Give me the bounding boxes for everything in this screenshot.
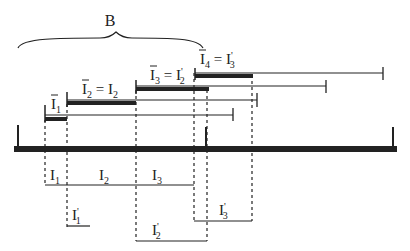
interval-bar-3: I3 = I'2 <box>136 66 326 94</box>
svg-text:I'2: I'2 <box>152 221 161 241</box>
svg-text:I1: I1 <box>50 167 60 186</box>
prime-segments: I'1 I'2 I'3 <box>67 201 252 241</box>
main-baseline <box>14 125 397 152</box>
interval-diagram: B I4 = I'3 I3 = I'2 I2 = I2 <box>0 0 410 251</box>
svg-text:I1: I1 <box>51 96 61 115</box>
svg-text:I2 = I2: I2 = I2 <box>82 81 118 100</box>
svg-text:I3: I3 <box>152 167 162 186</box>
brace-b <box>18 32 203 48</box>
svg-text:I2: I2 <box>99 167 109 186</box>
brace-label: B <box>105 12 116 29</box>
interval-bar-1: I1 <box>45 95 233 122</box>
interval-bar-4: I4 = I'3 <box>195 50 383 80</box>
svg-text:I4 = I'3: I4 = I'3 <box>200 50 235 70</box>
svg-text:I3 = I'2: I3 = I'2 <box>150 66 185 86</box>
svg-text:I'1: I'1 <box>72 206 81 226</box>
svg-text:I'3: I'3 <box>219 201 228 221</box>
interval-bar-2: I2 = I2 <box>67 80 257 107</box>
